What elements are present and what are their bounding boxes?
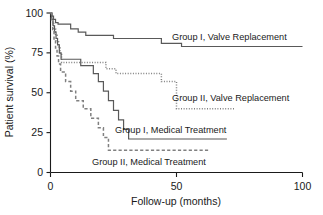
- series-label-0: Group I, Valve Replacement: [172, 32, 287, 42]
- x-tick-label: 100: [294, 180, 312, 192]
- series-label-2: Group I, Medical Treatment: [115, 125, 227, 135]
- y-axis-title: Patient survival (%): [3, 47, 15, 137]
- y-tick-label: 50: [31, 86, 43, 98]
- series-label-3: Group II, Medical Treatment: [92, 157, 206, 167]
- y-tick-label: 25: [31, 126, 43, 138]
- x-tick-label: 0: [48, 180, 54, 192]
- y-tick-label: 0: [37, 166, 43, 178]
- kaplan-meier-chart: 0255075100 050100 Patient survival (%) F…: [0, 0, 323, 215]
- y-tick-label: 100: [25, 7, 43, 19]
- series-label-1: Group II, Valve Replacement: [172, 93, 290, 103]
- x-axis-title: Follow-up (months): [131, 195, 221, 207]
- y-tick-label: 75: [31, 46, 43, 58]
- survival-chart-figure: 0255075100 050100 Patient survival (%) F…: [0, 0, 323, 215]
- x-tick-label: 50: [171, 180, 183, 192]
